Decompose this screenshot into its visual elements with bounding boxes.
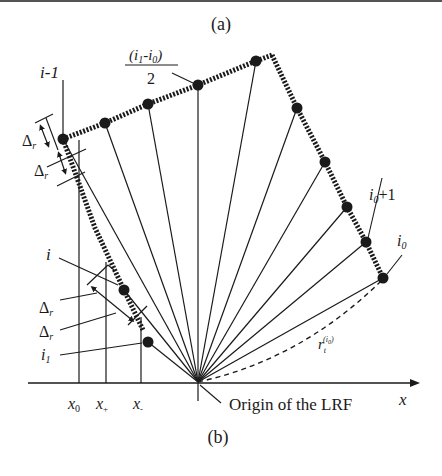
label-x0: x0: [67, 395, 80, 414]
svg-text:i0: i0: [397, 232, 406, 251]
label-midpoint: (i1-i0) 2: [125, 47, 178, 87]
svg-text:i1: i1: [41, 346, 50, 365]
label-i0: i0: [397, 232, 406, 251]
label-delta-r-4: Δr: [39, 323, 53, 342]
x-axis: [28, 379, 420, 401]
laser-rays: [63, 61, 383, 382]
label-i0-plus-1: i0+1: [369, 186, 395, 205]
svg-text:(i1-i0): (i1-i0): [129, 47, 162, 65]
svg-text:Δr: Δr: [39, 299, 53, 318]
svg-text:x0: x0: [67, 395, 80, 414]
point-i0-plus-1: [361, 237, 372, 248]
svg-text:rt(i0): rt(i0): [318, 335, 334, 355]
label-i-minus-1: i-1: [40, 63, 59, 82]
point-midpoint: [193, 80, 204, 91]
point-i: [119, 285, 130, 296]
label-i: i: [46, 245, 51, 264]
axis-arrow-icon: [410, 379, 420, 387]
label-origin: Origin of the LRF: [229, 395, 352, 414]
svg-text:2: 2: [147, 70, 155, 87]
scan-points: [58, 56, 389, 348]
label-delta-r-2: Δr: [34, 162, 48, 181]
point-i1: [143, 337, 154, 348]
label-delta-r-1: Δr: [22, 132, 36, 151]
label-range-r: rt(i0): [318, 335, 334, 355]
svg-text:Δr: Δr: [39, 323, 53, 342]
label-i1: i1: [41, 346, 50, 365]
point-i-minus-1: [58, 134, 69, 145]
svg-text:x+: x+: [95, 395, 108, 414]
svg-text:Δr: Δr: [22, 132, 36, 151]
label-delta-r-3: Δr: [39, 299, 53, 318]
point-i0: [378, 273, 389, 284]
lrf-diagram: (a): [0, 0, 442, 476]
panel-a-label: (a): [211, 14, 231, 35]
label-xplus: x+: [95, 395, 108, 414]
wall-edges: [63, 55, 383, 330]
label-xminus: x-: [132, 395, 143, 414]
panel-b-label: (b): [208, 427, 229, 448]
label-x-axis: x: [398, 390, 407, 409]
svg-text:Δr: Δr: [34, 162, 48, 181]
svg-text:x-: x-: [132, 395, 143, 414]
svg-text:i0+1: i0+1: [369, 186, 395, 205]
